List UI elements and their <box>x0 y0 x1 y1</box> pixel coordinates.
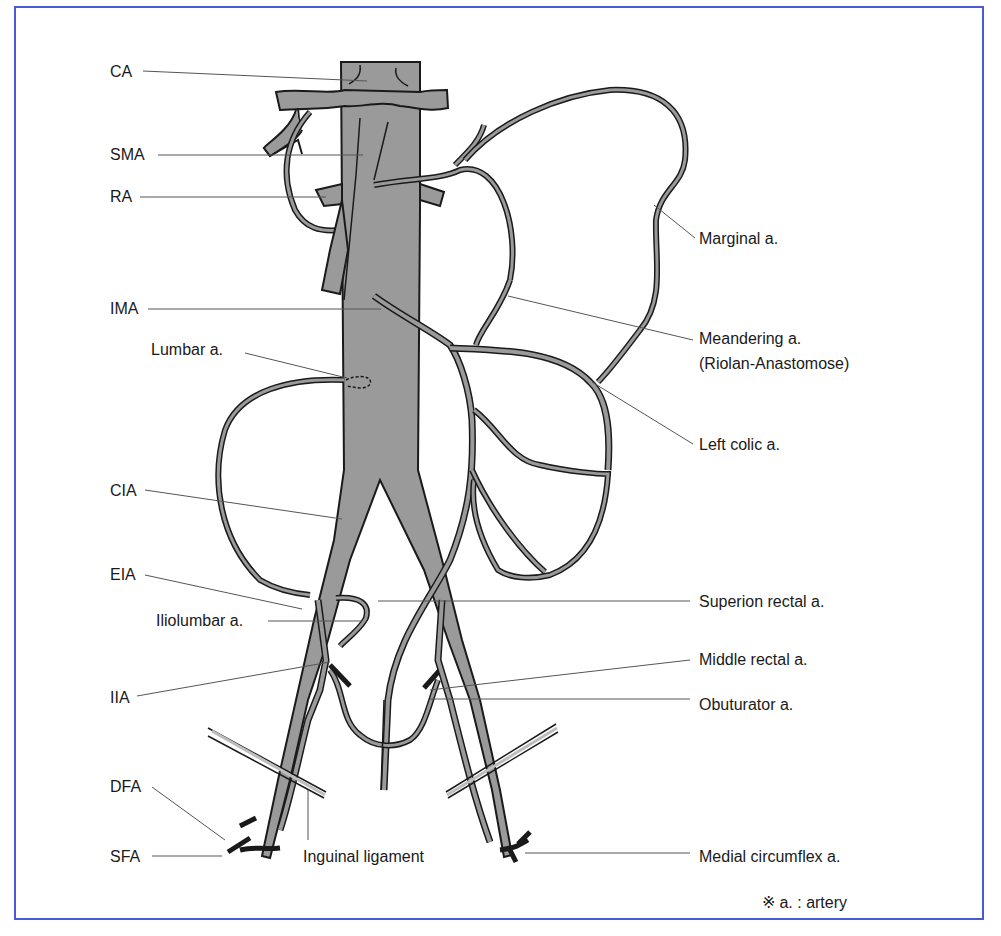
label-obturator: Obuturator a. <box>699 697 793 713</box>
label-cia: CIA <box>110 483 137 499</box>
label-medial-circumflex: Medial circumflex a. <box>699 849 840 865</box>
label-eia: EIA <box>110 567 136 583</box>
label-superior-rectal: Superion rectal a. <box>699 594 824 610</box>
label-inguinal-ligament: Inguinal ligament <box>303 849 424 865</box>
label-ca: CA <box>110 64 132 80</box>
label-ima: IMA <box>110 301 138 317</box>
artery-diagram <box>0 0 1001 936</box>
label-iliolumbar: Iliolumbar a. <box>156 613 243 629</box>
reference-mark-icon: ※ <box>762 894 775 911</box>
label-ra: RA <box>110 189 132 205</box>
footnote-text: a. : artery <box>779 894 847 911</box>
marginal-artery <box>465 90 686 382</box>
label-dfa: DFA <box>110 779 141 795</box>
label-iia: IIA <box>110 690 130 706</box>
inguinal-ligament-left <box>208 728 326 798</box>
label-left-colic: Left colic a. <box>699 437 780 453</box>
footnote: ※ a. : artery <box>762 895 847 911</box>
label-sma: SMA <box>110 147 145 163</box>
label-sfa: SFA <box>110 849 140 865</box>
label-riolan: (Riolan-Anastomose) <box>699 356 849 372</box>
label-meandering: Meandering a. <box>699 331 801 347</box>
label-middle-rectal: Middle rectal a. <box>699 652 808 668</box>
label-marginal: Marginal a. <box>699 231 778 247</box>
label-lumbar: Lumbar a. <box>151 342 223 358</box>
